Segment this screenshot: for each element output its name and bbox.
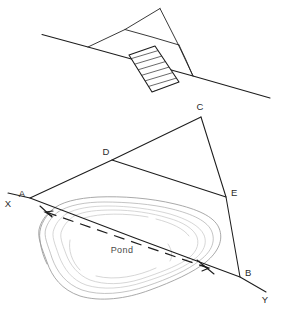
- figure-root: A X B Y C D E Pond: [0, 0, 282, 320]
- label-point-b: B: [245, 267, 251, 278]
- lower-plan-diagram: A X B Y C D E Pond: [5, 101, 269, 305]
- inset-triangle-left-leg: [88, 9, 160, 48]
- inset-triangle-chord: [125, 30, 179, 46]
- label-point-d: D: [103, 146, 110, 157]
- pond-detail-stroke-1: [84, 214, 148, 218]
- triangle-side-ac: [30, 117, 201, 198]
- offset-line-de: [112, 160, 226, 197]
- upper-inset-diagram: [42, 9, 270, 105]
- label-axis-y: Y: [262, 294, 269, 305]
- pond-west-lobe: [40, 210, 52, 264]
- pond-detail-stroke-4: [96, 268, 156, 278]
- pond-detail-stroke-2: [156, 219, 189, 236]
- survey-diagram-svg: A X B Y C D E Pond: [0, 0, 282, 320]
- pond-detail-stroke-5: [168, 244, 172, 261]
- label-point-e: E: [231, 187, 237, 198]
- label-point-c: C: [197, 101, 204, 112]
- label-axis-x: X: [5, 198, 12, 209]
- inset-triangle-inner-edge: [179, 45, 193, 76]
- pond-detail-stroke-3: [69, 240, 80, 270]
- label-pond: Pond: [111, 245, 134, 255]
- label-point-a: A: [19, 188, 26, 199]
